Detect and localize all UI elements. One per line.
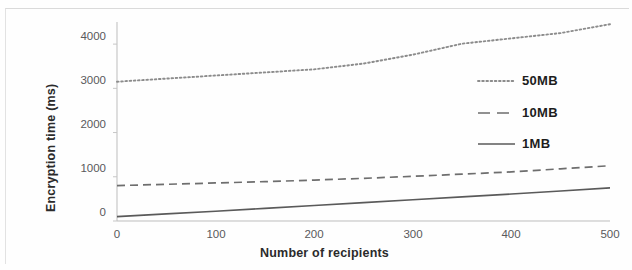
legend-label-50mb: 50MB: [522, 73, 558, 88]
series-line-10mb: [117, 166, 610, 186]
y-tick-marks: [113, 44, 117, 221]
x-tick-label-200: 200: [294, 228, 334, 240]
chart-figure: 0 1000 2000 3000 4000 0 100 200 300 400 …: [0, 0, 632, 270]
x-tick-label-0: 0: [97, 228, 137, 240]
x-axis-title: Number of recipients: [260, 246, 389, 260]
x-tick-label-400: 400: [491, 228, 531, 240]
series-line-1mb: [117, 188, 610, 217]
x-tick-label-100: 100: [196, 228, 236, 240]
legend-label-1mb: 1MB: [522, 136, 550, 151]
x-tick-label-500: 500: [590, 228, 630, 240]
legend-label-10mb: 10MB: [522, 105, 558, 120]
x-tick-label-300: 300: [393, 228, 433, 240]
y-axis-title: Encryption time (ms): [44, 84, 58, 212]
y-tick-label-4000: 4000: [48, 30, 106, 42]
